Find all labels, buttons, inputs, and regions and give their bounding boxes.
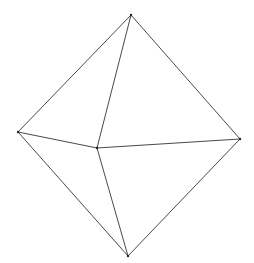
vertex-right <box>239 138 241 140</box>
octahedron-diagram <box>0 0 254 263</box>
edge-center-bottom <box>97 148 128 256</box>
edge-top-center <box>97 15 131 148</box>
edge-center-right <box>97 139 240 148</box>
edge-top-right <box>131 15 240 139</box>
vertex-center <box>96 147 98 149</box>
vertex-top <box>130 14 132 16</box>
vertex-bottom <box>127 255 129 257</box>
edge-top-left <box>18 15 131 132</box>
edge-right-bottom <box>128 139 240 256</box>
vertices-group <box>17 14 241 257</box>
edges-group <box>18 15 240 256</box>
vertex-left <box>17 131 19 133</box>
edge-left-bottom <box>18 132 128 256</box>
